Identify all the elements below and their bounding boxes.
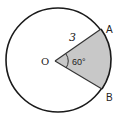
center-label: O (41, 56, 49, 67)
angle-label: 60° (72, 57, 86, 67)
point-a-label: A (106, 24, 113, 35)
radius-label: 3 (69, 31, 76, 44)
point-b-label: B (106, 92, 113, 103)
circle-sector-diagram: O 3 60° A B (0, 0, 121, 118)
